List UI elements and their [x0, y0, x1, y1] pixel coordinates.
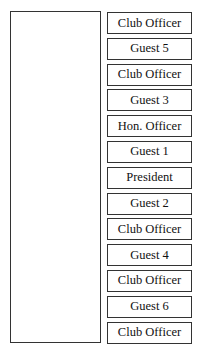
seat: Guest 1 [107, 141, 192, 163]
seat: Club Officer [107, 218, 192, 240]
seat: Club Officer [107, 270, 192, 292]
seat: Guest 3 [107, 89, 192, 111]
seat: Guest 4 [107, 244, 192, 266]
seat: Club Officer [107, 322, 192, 344]
seat: Guest 2 [107, 193, 192, 215]
seat-list: Club Officer Guest 5 Club Officer Guest … [107, 12, 192, 347]
seat: Club Officer [107, 64, 192, 86]
head-table [10, 11, 101, 343]
seat: President [107, 167, 192, 189]
seat: Guest 6 [107, 296, 192, 318]
seat: Club Officer [107, 12, 192, 34]
seat: Guest 5 [107, 38, 192, 60]
seat: Hon. Officer [107, 115, 192, 137]
